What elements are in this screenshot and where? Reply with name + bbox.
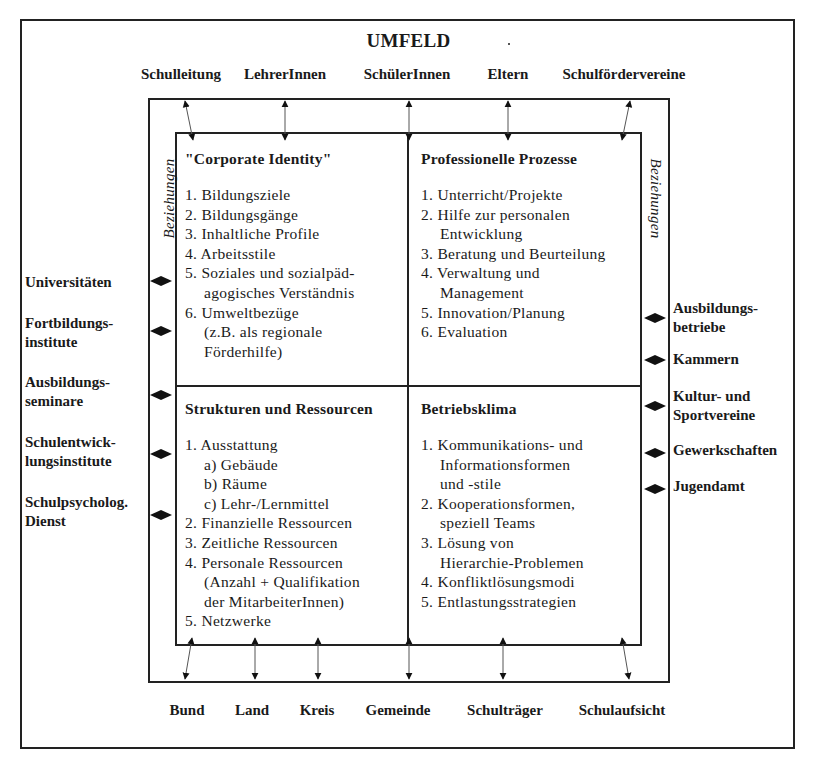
double-arrow-icon	[622, 101, 630, 140]
diamond-connector-icon	[150, 510, 172, 520]
diamond-connector-icon	[150, 276, 172, 286]
diamond-connector-icon	[644, 401, 666, 411]
double-arrow-icon	[185, 638, 192, 679]
double-arrow-icon	[185, 101, 193, 140]
diamond-connector-icon	[644, 313, 666, 323]
double-arrow-icon	[622, 638, 629, 679]
relation-arrows	[0, 0, 817, 764]
diamond-connector-icon	[150, 390, 172, 400]
diamond-connector-icon	[150, 449, 172, 459]
diamond-connector-icon	[150, 326, 172, 336]
diamond-connector-icon	[644, 355, 666, 365]
diamond-connector-icon	[644, 448, 666, 458]
diamond-connector-icon	[644, 484, 666, 494]
